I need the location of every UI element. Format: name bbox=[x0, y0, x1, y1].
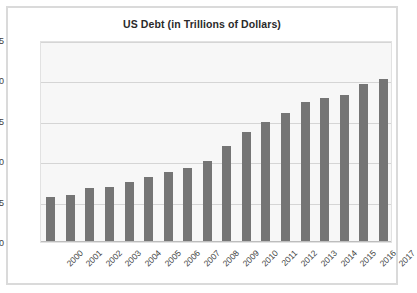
bar[interactable] bbox=[85, 188, 94, 242]
x-axis-tick-label: 2013 bbox=[319, 248, 339, 268]
bar[interactable] bbox=[144, 177, 153, 242]
x-axis-tick-label: 2008 bbox=[221, 248, 241, 268]
bar-series bbox=[41, 42, 391, 242]
x-axis-tick-labels: 2000200120022003200420052006200720082009… bbox=[40, 246, 392, 286]
chart-title: US Debt (in Trillions of Dollars) bbox=[8, 18, 396, 30]
y-axis-tick-label: 25 bbox=[0, 36, 4, 46]
bar[interactable] bbox=[105, 187, 114, 242]
y-axis-tick-label: 0 bbox=[0, 238, 4, 248]
x-axis-tick-label: 2006 bbox=[182, 248, 202, 268]
y-axis-tick-label: 5 bbox=[0, 198, 4, 208]
x-axis-tick-label: 2000 bbox=[64, 248, 84, 268]
x-axis-tick-label: 2001 bbox=[84, 248, 104, 268]
bar[interactable] bbox=[66, 195, 75, 242]
bar[interactable] bbox=[242, 132, 251, 242]
x-axis-tick-label: 2014 bbox=[338, 248, 358, 268]
bar[interactable] bbox=[164, 172, 173, 242]
bar[interactable] bbox=[46, 197, 55, 242]
bar[interactable] bbox=[125, 182, 134, 242]
x-axis-tick-label: 2016 bbox=[377, 248, 397, 268]
bar[interactable] bbox=[281, 113, 290, 242]
x-axis-tick-label: 2010 bbox=[260, 248, 280, 268]
bar[interactable] bbox=[379, 79, 388, 242]
bar[interactable] bbox=[359, 84, 368, 242]
x-axis-tick-label: 2011 bbox=[279, 248, 299, 268]
x-axis-tick-label: 2017 bbox=[397, 248, 417, 268]
chart-card: US Debt (in Trillions of Dollars) 051015… bbox=[6, 6, 398, 285]
bar[interactable] bbox=[203, 161, 212, 242]
x-axis-tick-label: 2009 bbox=[240, 248, 260, 268]
x-axis-line bbox=[41, 241, 391, 242]
x-axis-tick-label: 2005 bbox=[162, 248, 182, 268]
x-axis-tick-label: 2004 bbox=[143, 248, 163, 268]
x-axis-tick-label: 2012 bbox=[299, 248, 319, 268]
x-axis-tick-label: 2003 bbox=[123, 248, 143, 268]
y-axis-tick-label: 10 bbox=[0, 157, 4, 167]
bar[interactable] bbox=[183, 168, 192, 242]
x-axis-tick-label: 2002 bbox=[103, 248, 123, 268]
x-axis-tick-label: 2007 bbox=[201, 248, 221, 268]
bar[interactable] bbox=[340, 95, 349, 242]
plot-area bbox=[40, 41, 392, 243]
x-axis-tick-label: 2015 bbox=[358, 248, 378, 268]
y-axis-tick-label: 15 bbox=[0, 117, 4, 127]
bar[interactable] bbox=[261, 122, 270, 242]
bar[interactable] bbox=[320, 98, 329, 242]
bar[interactable] bbox=[301, 102, 310, 242]
bar[interactable] bbox=[222, 146, 231, 242]
y-axis-tick-label: 20 bbox=[0, 76, 4, 86]
